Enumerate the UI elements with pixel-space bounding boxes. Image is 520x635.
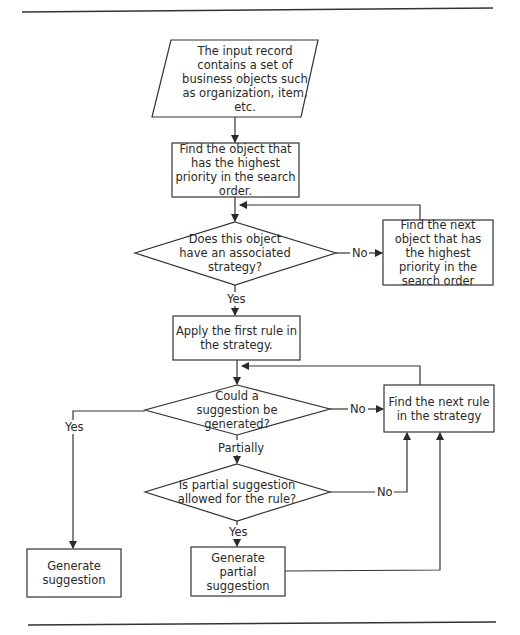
find-next-rule-text: Find the next rule in the strategy	[386, 387, 492, 430]
could-generate-text: Could a suggestion be generated?	[182, 394, 292, 426]
top-rule	[22, 8, 493, 12]
find-next-object-text: Find the next object that has the highes…	[385, 222, 491, 283]
find-highest-text: Find the object that has the highest pri…	[174, 145, 297, 195]
edge-label-generate-no: No	[349, 402, 367, 416]
partial-allowed-text: Is partial suggestion allowed for the ru…	[177, 476, 297, 508]
edge-label-strategy-yes: Yes	[226, 292, 247, 306]
edge-label-partial-yes: Yes	[228, 525, 249, 539]
has-strategy-text: Does this object have an associated stra…	[175, 230, 295, 276]
edge-label-strategy-no: No	[351, 246, 369, 260]
edge-label-partial-no: No	[376, 485, 394, 499]
edge-label-generate-partially: Partially	[217, 441, 265, 455]
edge-label-generate-yes: Yes	[64, 420, 85, 434]
generate-suggestion-text: Generate suggestion	[29, 551, 119, 595]
bottom-rule	[28, 622, 496, 625]
generate-partial-text: Generate partial suggestion	[193, 549, 283, 594]
input-record-text: The input record contains a set of busin…	[176, 44, 314, 114]
apply-first-rule-text: Apply the first rule in the strategy.	[175, 318, 298, 358]
